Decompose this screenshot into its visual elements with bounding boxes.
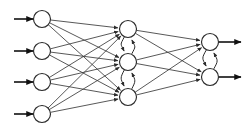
output-layer-nodes [202,34,219,86]
edge-i4-h3 [50,99,118,112]
input-layer-nodes [34,11,51,123]
edge-h3-o2 [136,79,200,95]
recur-h3-h2 [132,73,135,89]
input-node-2[interactable] [34,43,51,60]
hidden-node-2[interactable] [120,54,137,71]
edge-h2-o1 [136,44,200,60]
input-node-4[interactable] [34,106,51,123]
input-arrows [14,19,33,114]
recur-h2-h1 [132,40,135,54]
output-node-1[interactable] [202,34,219,51]
input-node-1[interactable] [34,11,51,28]
recur-o1-o2 [203,50,206,66]
recur-o2-o1 [214,53,217,69]
hidden-layer-nodes [120,21,137,106]
output-node-2[interactable] [202,69,219,86]
input-node-3[interactable] [34,74,51,91]
recurrent-edges-output [203,50,217,69]
edge-i2-h1 [50,32,118,49]
output-arrows [219,42,241,77]
edge-i1-h1 [50,20,118,28]
network-canvas [0,0,249,132]
edge-h1-o1 [136,30,200,40]
edge-i3-h3 [50,83,118,95]
edges-input-to-hidden [48,20,121,112]
hidden-node-3[interactable] [120,89,137,106]
recur-h2-h3 [121,70,124,86]
edges-hidden-to-output [135,30,202,95]
neural-network-diagram [0,0,249,132]
hidden-node-1[interactable] [120,21,137,38]
edge-i1-h3 [48,25,120,91]
edge-i3-h1 [49,34,119,77]
edge-h3-o1 [135,48,202,93]
recur-h1-h2 [121,37,124,51]
